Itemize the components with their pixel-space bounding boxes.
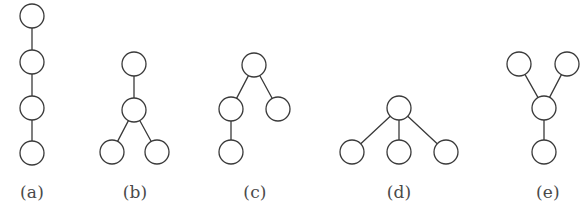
tree-node xyxy=(20,50,44,74)
tree-edge xyxy=(260,76,273,99)
tree-edge xyxy=(118,121,129,142)
tree-node xyxy=(434,140,458,164)
tree-node xyxy=(122,98,146,122)
tree-node xyxy=(340,140,364,164)
panel-label-c: (c) xyxy=(243,184,266,201)
tree-node xyxy=(532,140,556,164)
tree-c-nodes xyxy=(219,53,290,164)
tree-node xyxy=(20,96,44,120)
panel-label-e: (e) xyxy=(536,184,560,201)
tree-node xyxy=(145,140,169,164)
tree-node xyxy=(387,140,411,164)
tree-figure: (a)(b)(c)(d)(e) xyxy=(0,0,580,222)
tree-node xyxy=(555,52,579,76)
tree-node xyxy=(266,97,290,121)
trees-diagram xyxy=(0,0,580,222)
tree-node xyxy=(20,141,44,165)
tree-node xyxy=(100,140,124,164)
tree-node xyxy=(219,140,243,164)
tree-node xyxy=(387,96,411,120)
tree-node xyxy=(507,52,531,76)
panel-label-a: (a) xyxy=(20,184,44,201)
tree-e-nodes xyxy=(507,52,579,164)
tree-node xyxy=(219,97,243,121)
tree-node xyxy=(20,4,44,28)
panel-label-d: (d) xyxy=(387,184,412,201)
nodes-layer xyxy=(20,4,579,165)
tree-edge xyxy=(550,75,562,98)
panel-label-b: (b) xyxy=(123,184,148,201)
tree-node xyxy=(122,52,146,76)
tree-node xyxy=(532,96,556,120)
tree-edge xyxy=(237,76,249,99)
tree-edge xyxy=(361,116,390,144)
tree-edge xyxy=(408,116,437,144)
tree-edge xyxy=(525,74,538,97)
tree-node xyxy=(242,53,266,77)
edges-layer xyxy=(32,28,561,144)
tree-b-nodes xyxy=(100,52,169,164)
tree-edge xyxy=(140,121,151,142)
